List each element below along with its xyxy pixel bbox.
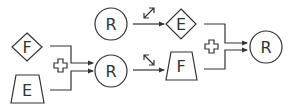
final-circle-label: R (260, 38, 271, 57)
diagram-canvas: F E R R E F (0, 0, 289, 111)
left-trapezoid-label: E (22, 81, 32, 100)
middle-circle-label: R (105, 62, 116, 81)
top-circle-node: R (95, 8, 127, 40)
right-trapezoid-node: F (166, 52, 197, 80)
plus-outline-icon (54, 59, 67, 72)
left-trapezoid-node: E (11, 75, 44, 103)
left-diamond-label: F (22, 38, 31, 57)
shrink-diagonal-icon (144, 55, 154, 65)
right-diamond-label: E (176, 15, 186, 34)
final-circle-node: R (250, 31, 282, 63)
right-trapezoid-label: F (176, 57, 185, 76)
middle-circle-node: R (95, 55, 127, 87)
left-diamond-node: F (12, 33, 42, 61)
expand-diagonal-icon (144, 8, 154, 18)
top-circle-label: R (105, 15, 116, 34)
plus-outline-icon (205, 40, 218, 53)
right-diamond-node: E (166, 9, 196, 39)
